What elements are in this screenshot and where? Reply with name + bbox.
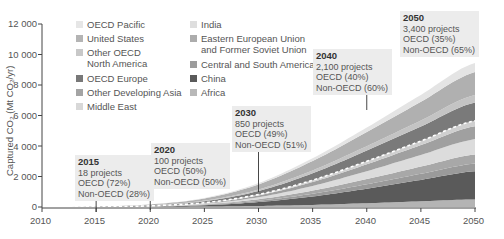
annotation-2050: 2050 3,400 projects OECD (35%) Non-OECD …: [400, 11, 479, 57]
legend-item-other-oecd-north-america: Other OECDNorth America: [76, 47, 147, 69]
legend-swatch: [76, 35, 83, 42]
annotation-2040: 2040 2,100 projects OECD (40%) Non-OECD …: [313, 49, 392, 95]
y-ticks: [38, 24, 42, 207]
annotation-2015: 2015 18 projects OECD (72%) Non-OECD (28…: [75, 155, 154, 201]
y-tick-label: 12 000: [8, 18, 37, 29]
x-tick-label: 2045: [409, 215, 430, 226]
x-tick-label: 2010: [30, 215, 51, 226]
legend-item-oecd-pacific: OECD Pacific: [76, 19, 145, 30]
legend-item-united-states: United States: [76, 33, 144, 44]
legend-item-other-developing-asia: Other Developing Asia: [76, 87, 182, 98]
annotation-2030: 2030 850 projects OECD (49%) Non-OECD (5…: [232, 106, 311, 152]
legend-swatch: [190, 89, 197, 96]
legend-item-central-south-america: Central and South America: [190, 59, 315, 70]
legend-swatch: [76, 103, 83, 110]
x-tick-label: 2035: [300, 215, 321, 226]
x-ticks: [42, 208, 475, 212]
legend-swatch: [190, 61, 197, 68]
y-tick-label: 10 000: [8, 49, 37, 60]
annotation-2020: 2020 100 projects OECD (50%) Non-OECD (5…: [151, 143, 230, 189]
legend-item-middle-east: Middle East: [76, 101, 137, 112]
x-tick-label: 2025: [192, 215, 213, 226]
legend-item-china: China: [190, 73, 226, 84]
y-tick-label: 2 000: [13, 171, 37, 182]
x-tick-label: 2040: [355, 215, 376, 226]
legend-swatch: [76, 75, 83, 82]
y-tick-label: 0: [32, 201, 37, 212]
legend-item-india: India: [190, 19, 222, 30]
y-tick-label: 4 000: [13, 141, 37, 152]
legend-swatch: [76, 49, 83, 56]
x-tick-label: 2015: [84, 215, 105, 226]
legend-item-eastern-eu-fsu: Eastern European Unionand Former Soviet …: [190, 33, 307, 55]
legend-swatch: [76, 21, 83, 28]
x-tick-label: 2020: [138, 215, 159, 226]
legend-swatch: [76, 89, 83, 96]
legend-swatch: [190, 35, 197, 42]
x-tick-label: 2050: [463, 215, 484, 226]
legend-swatch: [190, 75, 197, 82]
legend-swatch: [190, 21, 197, 28]
legend-item-africa: Africa: [190, 87, 225, 98]
x-tick-label: 2030: [246, 215, 267, 226]
y-tick-label: 6 000: [13, 110, 37, 121]
y-tick-label: 8 000: [13, 79, 37, 90]
legend-item-oecd-europe: OECD Europe: [76, 73, 148, 84]
